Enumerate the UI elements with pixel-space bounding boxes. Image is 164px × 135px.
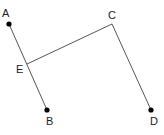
point-a-dot [6, 21, 11, 26]
point-b-dot [44, 107, 49, 112]
label-c: C [108, 9, 116, 21]
segment-ec [27, 24, 112, 64]
label-d: D [150, 115, 158, 127]
label-b: B [46, 115, 53, 127]
point-d-dot [148, 107, 153, 112]
label-e: E [16, 63, 23, 75]
segment-cd [112, 24, 151, 110]
label-a: A [2, 7, 10, 19]
geometry-diagram: A B C D E [0, 0, 164, 135]
segment-ab [9, 24, 47, 110]
